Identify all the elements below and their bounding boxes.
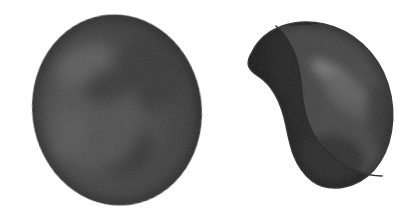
micrograph-canvas <box>0 0 410 218</box>
micrograph-figure: Erythrocyte morphology micrograph Graysc… <box>0 0 410 218</box>
